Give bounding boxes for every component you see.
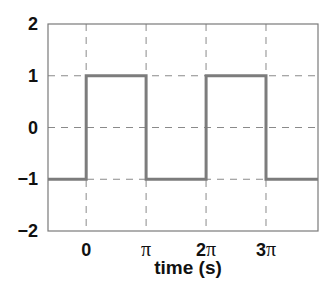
- y-tick-label: 0: [28, 118, 38, 138]
- y-tick-labels: −2−1012: [17, 14, 38, 241]
- x-tick-label: 0: [81, 240, 91, 260]
- square-wave-chart: −2−1012 0π2π3π time (s): [0, 0, 332, 293]
- x-tick-label: 3π: [256, 238, 276, 260]
- x-tick-label: π: [141, 238, 151, 260]
- y-tick-label: −1: [17, 169, 38, 189]
- y-tick-label: 2: [28, 14, 38, 34]
- x-axis-label: time (s): [154, 257, 222, 278]
- y-tick-label: −2: [17, 221, 38, 241]
- grid-lines: [48, 24, 318, 231]
- y-tick-label: 1: [28, 66, 38, 86]
